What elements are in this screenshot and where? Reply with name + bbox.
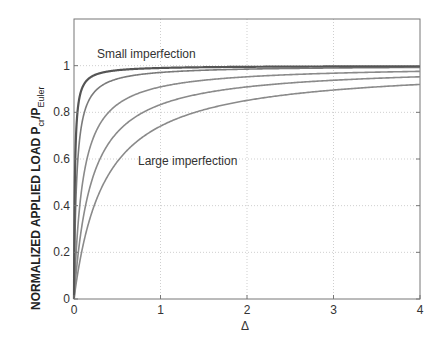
series-line — [74, 67, 420, 299]
x-tick-label: 2 — [244, 303, 251, 317]
y-axis-label-sub-cr: cr — [36, 119, 46, 127]
y-tick-label: 0.8 — [53, 105, 70, 119]
series-line — [74, 71, 420, 299]
y-axis-label-main: NORMALIZED APPLIED LOAD P — [29, 126, 43, 310]
x-axis-ticks: 01234 — [71, 295, 424, 317]
x-tick-label: 1 — [157, 303, 164, 317]
annotation-small-imperfection: Small imperfection — [97, 47, 196, 61]
x-tick-label: 0 — [71, 303, 78, 317]
x-tick-label: 4 — [417, 303, 424, 317]
chart: 01234 00.20.40.60.81 Small imperfection … — [0, 0, 444, 346]
y-axis-label: NORMALIZED APPLIED LOAD Pcr/PEuler — [29, 87, 46, 310]
y-tick-label: 0.6 — [53, 152, 70, 166]
y-tick-label: 0 — [63, 292, 70, 306]
y-axis-label-slash: /P — [29, 108, 43, 119]
y-tick-label: 0.2 — [53, 245, 70, 259]
grid — [74, 19, 420, 299]
y-tick-label: 0.4 — [53, 199, 70, 213]
y-axis-ticks: 00.20.40.60.81 — [53, 59, 420, 306]
y-axis-label-sub-euler: Euler — [36, 87, 46, 108]
x-axis-label: Δ — [241, 319, 249, 333]
annotation-large-imperfection: Large imperfection — [138, 154, 237, 168]
series-lines — [74, 66, 420, 299]
x-tick-label: 3 — [330, 303, 337, 317]
series-line — [74, 84, 420, 299]
svg-text:NORMALIZED APPLIED LOAD Pcr/PE: NORMALIZED APPLIED LOAD Pcr/PEuler — [29, 87, 46, 310]
y-tick-label: 1 — [63, 59, 70, 73]
